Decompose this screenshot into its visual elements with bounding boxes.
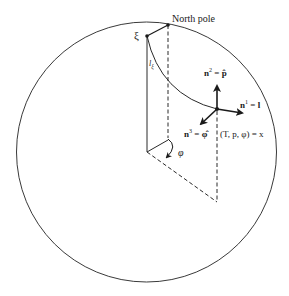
xi-point	[145, 34, 149, 38]
north-pole-point	[166, 23, 170, 27]
xi-label: ξ	[134, 29, 139, 42]
point-x-label: (T, p, φ) = x	[220, 129, 264, 139]
l-xi-label: lξ	[149, 59, 154, 70]
center-to-pole-foot-line	[147, 140, 168, 152]
center-to-x-projection-dashed	[147, 152, 217, 202]
n1-rest: = l	[248, 100, 261, 110]
sphere-diagram: North pole ξ lξ n2 = p̂ n1 = l n3 = φ̂ (…	[0, 0, 289, 296]
phi-label: φ	[178, 147, 184, 158]
phi-angle-arc	[167, 139, 173, 157]
n3-label: n3 = φ̂	[184, 128, 209, 139]
north-pole-label: North pole	[172, 13, 216, 24]
l-xi-sub: ξ	[151, 63, 154, 70]
xi-to-north-pole-segment	[147, 25, 168, 36]
n2-label: n2 = p̂	[204, 67, 227, 78]
x-point	[215, 107, 219, 111]
n3-arrow	[201, 109, 217, 124]
n1-label: n1 = l	[240, 99, 261, 110]
n2-rest: = p̂	[212, 68, 227, 78]
n1-arrow	[217, 109, 242, 113]
n3-rest: = φ̂	[192, 129, 209, 139]
